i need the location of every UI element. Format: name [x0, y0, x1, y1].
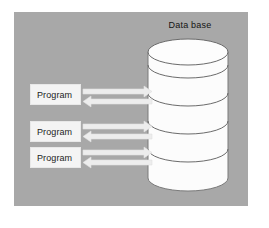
program-box-2[interactable]: Program	[30, 121, 81, 142]
arrow-to-database-1	[83, 86, 152, 97]
diagram-canvas: Data base Program Program Program	[0, 0, 269, 228]
cylinder-body	[148, 52, 228, 191]
arrow-to-database-3	[83, 147, 152, 158]
arrow-to-program-1	[83, 96, 152, 107]
connector-program-2	[83, 121, 152, 142]
program-box-3[interactable]: Program	[30, 147, 81, 168]
connector-program-3	[83, 147, 152, 168]
arrow-to-program-3	[83, 157, 152, 168]
program-box-1[interactable]: Program	[30, 84, 81, 105]
diagram-graphics	[0, 0, 269, 228]
database-cylinder	[148, 39, 228, 191]
cylinder-top-ellipse	[148, 39, 228, 65]
program-label-3: Program	[37, 153, 72, 163]
arrow-to-database-2	[83, 121, 152, 132]
database-title: Data base	[150, 20, 230, 30]
arrow-to-program-2	[83, 131, 152, 142]
connector-program-1	[83, 86, 152, 107]
program-label-2: Program	[37, 127, 72, 137]
program-label-1: Program	[37, 90, 72, 100]
